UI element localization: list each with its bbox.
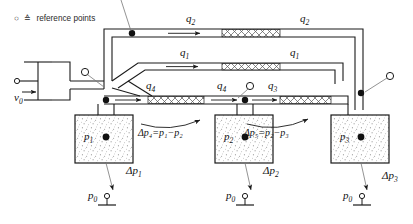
channel-bottom-main bbox=[103, 90, 364, 104]
label-dp1: Δp1 bbox=[126, 165, 142, 179]
label-q2-left: q2 bbox=[186, 13, 195, 27]
equation-dp4: Δp₄=p₁−p₂ bbox=[138, 128, 183, 138]
reference-circle-right bbox=[386, 72, 393, 79]
ambient-port-right bbox=[359, 193, 364, 198]
channel-q2 bbox=[104, 29, 363, 89]
restrictor-q1 bbox=[222, 64, 280, 70]
diagram-canvas: ○ ≙ reference points v0 q2 q2 q1 q1 q4 q… bbox=[0, 0, 413, 224]
label-q2-right: q2 bbox=[300, 13, 309, 27]
equation-dp5: Δp₅=p₂−p₃ bbox=[244, 128, 289, 138]
reference-leader-top bbox=[121, 0, 131, 31]
node-q2 bbox=[129, 30, 135, 36]
chamber-p3 bbox=[331, 104, 389, 205]
chamber-p2 bbox=[215, 104, 273, 205]
label-dp3: Δp3 bbox=[382, 170, 398, 184]
legend-text: reference points bbox=[37, 14, 96, 23]
label-q3: q3 bbox=[268, 80, 277, 94]
reference-circle-mid bbox=[246, 82, 253, 89]
label-p2: p2 bbox=[224, 131, 233, 145]
ambient-port-left bbox=[104, 193, 109, 198]
right-riser bbox=[355, 29, 363, 110]
label-p0-mid: p0 bbox=[226, 190, 235, 204]
restrictor-q2 bbox=[222, 30, 280, 37]
label-v0: v0 bbox=[14, 92, 23, 106]
v0-sub: 0 bbox=[19, 97, 23, 106]
legend: ○ ≙ reference points bbox=[14, 13, 95, 23]
legend-equals-symbol: ≙ bbox=[24, 14, 31, 23]
label-q4-right: q4 bbox=[217, 80, 226, 94]
chamber-p1 bbox=[75, 104, 133, 205]
label-p3: p3 bbox=[340, 131, 349, 145]
label-p0-left: p0 bbox=[88, 190, 97, 204]
label-q1-left: q1 bbox=[180, 47, 189, 61]
node-p2 bbox=[242, 97, 248, 103]
restrictor-q4 bbox=[148, 97, 204, 104]
legend-circle-symbol: ○ bbox=[14, 14, 19, 23]
node-chamber-p1 bbox=[103, 134, 110, 141]
reference-circle-left bbox=[81, 68, 88, 75]
ambient-port-mid bbox=[242, 193, 247, 198]
label-p0-right: p0 bbox=[343, 190, 352, 204]
node-chamber-p3 bbox=[358, 134, 365, 141]
label-q1-right: q1 bbox=[290, 47, 299, 61]
reference-markers bbox=[81, 0, 393, 98]
label-dp2: Δp2 bbox=[263, 165, 279, 179]
node-p1 bbox=[103, 97, 109, 103]
label-p1: p1 bbox=[84, 131, 93, 145]
restrictor-q3 bbox=[280, 97, 331, 104]
label-q4-left: q4 bbox=[146, 80, 155, 94]
